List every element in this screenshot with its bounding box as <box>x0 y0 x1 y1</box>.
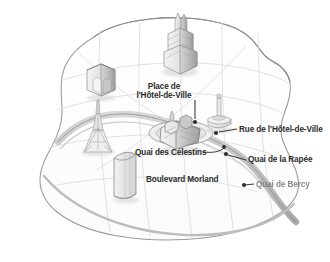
dot-quai-rapee <box>224 152 228 156</box>
dot-quai-bercy <box>242 183 246 187</box>
label-line-2: l'Hôtel-de-Ville <box>137 91 192 100</box>
arc-de-triomphe-landmark <box>87 64 115 102</box>
dot-quai-celestins <box>222 145 226 149</box>
label-line-1: Place de <box>148 82 180 91</box>
dot-rue-hotel-de-ville <box>214 131 218 135</box>
label-rue-hotel-de-ville: Rue de l'Hôtel-de-Ville <box>239 125 323 134</box>
label-place-hotel-de-ville: Place de l'Hôtel-de-Ville <box>131 82 197 100</box>
label-quai-des-celestins: Quai des Célestins <box>135 148 206 157</box>
paris-illustrated-map: Place de l'Hôtel-de-Ville Rue de l'Hôtel… <box>0 0 330 262</box>
label-boulevard-morland: Boulevard Morland <box>146 175 218 184</box>
dot-place-hotel-de-ville <box>193 120 197 124</box>
label-quai-de-bercy: Quai de Bercy <box>256 180 310 189</box>
label-quai-de-la-rapee: Quai de la Rapée <box>248 155 312 164</box>
